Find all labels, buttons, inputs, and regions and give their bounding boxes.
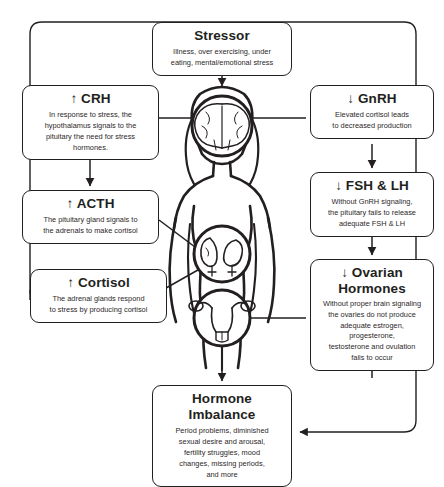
neck-left xyxy=(213,162,214,176)
node-acth[interactable]: ↑ ACTH The pituitary gland signals to th… xyxy=(22,190,159,244)
female-figure-illustration xyxy=(150,78,294,378)
arm-left-outer xyxy=(170,218,176,322)
node-ovarian-hormones[interactable]: ↓ Ovarian Hormones Without proper brain … xyxy=(310,259,434,371)
node-gnrh-title: ↓ GnRH xyxy=(317,91,427,107)
node-gnrh-body: Elevated cortisol leads to decreased pro… xyxy=(317,110,427,132)
node-gnrh[interactable]: ↓ GnRH Elevated cortisol leads to decrea… xyxy=(310,85,434,139)
node-crh-title: ↑ CRH xyxy=(29,91,152,107)
node-ovarian-hormones-body: Without proper brain signaling the ovari… xyxy=(317,299,427,364)
node-cortisol-title: ↑ Cortisol xyxy=(37,275,160,291)
node-fsh-lh[interactable]: ↓ FSH & LH Without GnRH signaling, the p… xyxy=(310,172,434,237)
node-fsh-lh-body: Without GnRH signaling, the pituitary fa… xyxy=(317,197,427,229)
node-ovarian-hormones-title: ↓ Ovarian Hormones xyxy=(317,265,427,296)
node-stressor-title: Stressor xyxy=(159,28,285,44)
node-stressor[interactable]: Stressor Illness, over exercising, under… xyxy=(152,22,292,76)
node-cortisol[interactable]: ↑ Cortisol The adrenal glands respond to… xyxy=(30,269,167,323)
node-fsh-lh-title: ↓ FSH & LH xyxy=(317,178,427,194)
node-hormone-imbalance-body: Period problems, diminished sexual desir… xyxy=(159,426,285,480)
node-crh-body: In response to stress, the hypothalamus … xyxy=(29,110,152,153)
node-acth-body: The pituitary gland signals to the adren… xyxy=(29,215,152,237)
adrenal-glands-circle xyxy=(194,226,250,282)
neck-right xyxy=(230,162,231,176)
arm-right-outer xyxy=(268,218,274,322)
node-crh[interactable]: ↑ CRH In response to stress, the hypotha… xyxy=(22,85,159,160)
node-stressor-body: Illness, over exercising, under eating, … xyxy=(159,47,285,69)
node-hormone-imbalance-title: Hormone Imbalance xyxy=(159,391,285,423)
brain-circle xyxy=(192,96,252,156)
node-cortisol-body: The adrenal glands respond to stress by … xyxy=(37,294,160,316)
node-hormone-imbalance[interactable]: Hormone Imbalance Period problems, dimin… xyxy=(152,385,292,487)
node-acth-title: ↑ ACTH xyxy=(29,196,152,212)
